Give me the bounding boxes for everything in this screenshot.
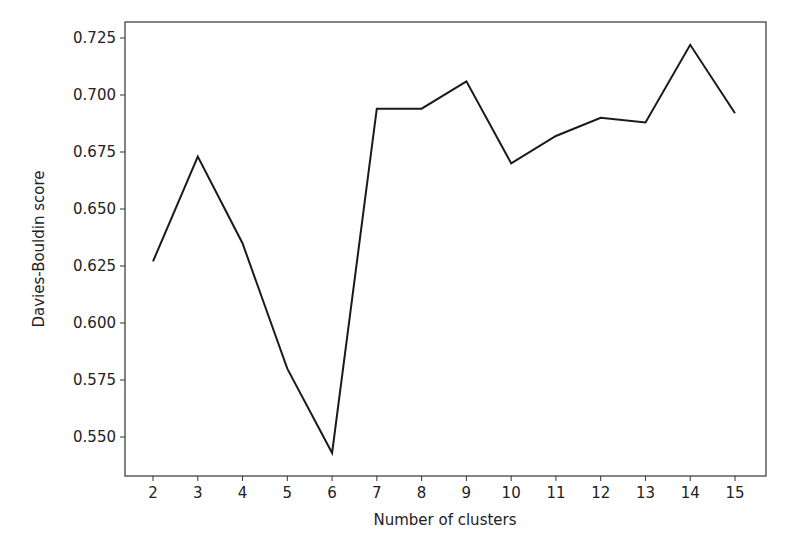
y-tick-label: 0.675 bbox=[73, 143, 116, 161]
x-tick-label: 9 bbox=[462, 484, 472, 502]
x-tick-label: 5 bbox=[283, 484, 293, 502]
y-tick-label: 0.550 bbox=[73, 428, 116, 446]
x-tick-label: 15 bbox=[725, 484, 744, 502]
x-axis: 23456789101112131415 bbox=[148, 476, 744, 502]
y-axis-label: Davies-Bouldin score bbox=[30, 170, 48, 327]
plot-area bbox=[125, 22, 766, 476]
y-tick-label: 0.725 bbox=[73, 29, 116, 47]
x-axis-label: Number of clusters bbox=[373, 511, 516, 529]
series-line bbox=[153, 45, 735, 453]
x-tick-label: 13 bbox=[636, 484, 655, 502]
x-tick-label: 10 bbox=[502, 484, 521, 502]
x-tick-label: 8 bbox=[417, 484, 427, 502]
plot-frame bbox=[125, 22, 766, 476]
y-tick-label: 0.575 bbox=[73, 371, 116, 389]
x-tick-label: 6 bbox=[327, 484, 337, 502]
y-tick-label: 0.625 bbox=[73, 257, 116, 275]
x-tick-label: 2 bbox=[148, 484, 158, 502]
x-tick-label: 14 bbox=[681, 484, 700, 502]
x-tick-label: 11 bbox=[546, 484, 565, 502]
x-tick-label: 4 bbox=[238, 484, 248, 502]
x-tick-label: 12 bbox=[591, 484, 610, 502]
y-tick-label: 0.600 bbox=[73, 314, 116, 332]
x-tick-label: 3 bbox=[193, 484, 203, 502]
line-chart: 0.5500.5750.6000.6250.6500.6750.7000.725… bbox=[0, 0, 790, 551]
x-tick-label: 7 bbox=[372, 484, 382, 502]
y-tick-label: 0.700 bbox=[73, 86, 116, 104]
data-series bbox=[153, 45, 735, 453]
y-tick-label: 0.650 bbox=[73, 200, 116, 218]
y-axis: 0.5500.5750.6000.6250.6500.6750.7000.725 bbox=[73, 29, 125, 446]
